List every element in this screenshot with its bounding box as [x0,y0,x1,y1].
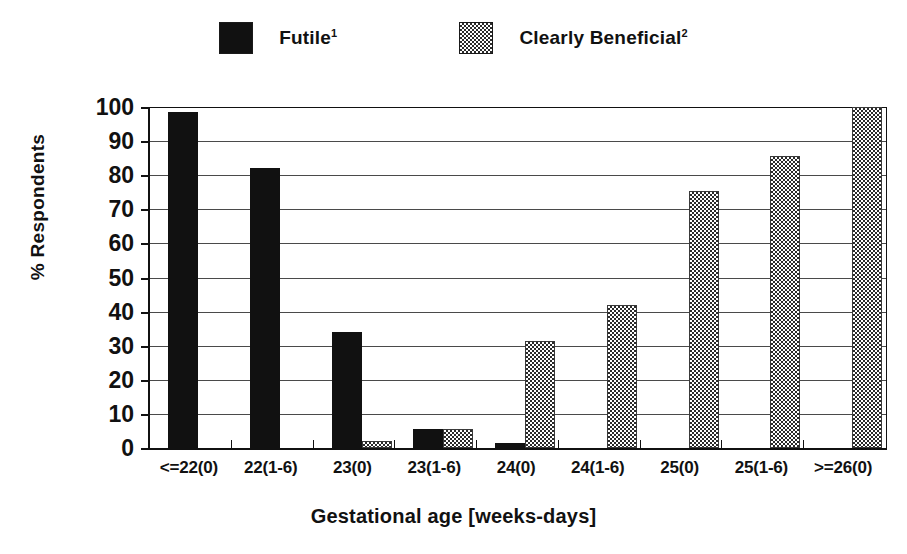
y-axis-tick-90 [141,141,150,143]
x-axis-tick-label->=26(0): >=26(0) [802,458,884,478]
y-axis-title: % Respondents [27,97,49,317]
bar-group->=26(0) [804,107,886,448]
bar-futile-<=22(0) [168,112,198,448]
bar-futile-23(1-6) [413,429,443,448]
y-axis-tick-10 [141,414,150,416]
bar-group-24(1-6) [559,107,641,448]
y-axis-tick-60 [141,243,150,245]
y-axis-tick-label-20: 20 [108,368,134,391]
bar-group-23(1-6) [395,107,477,448]
y-axis-tick-40 [141,312,150,314]
y-axis-tick-label-80: 80 [108,164,134,187]
bar-clearly-beneficial-25(1-6) [770,156,800,448]
y-axis-tick-label-90: 90 [108,130,134,153]
y-axis-tick-100 [141,107,150,109]
y-axis-tick-label-70: 70 [108,198,134,221]
y-axis-tick-label-30: 30 [108,334,134,357]
y-axis-tick-label-40: 40 [108,300,134,323]
x-axis-tick-label-25(1-6): 25(1-6) [720,458,802,478]
bar-futile-24(0) [495,443,525,448]
y-axis-tick-label-10: 10 [108,402,134,425]
x-axis-tick-label-24(1-6): 24(1-6) [557,458,639,478]
y-axis-tick-70 [141,209,150,211]
y-axis-tick-20 [141,380,150,382]
y-axis-tick-30 [141,346,150,348]
x-axis-tick-label-24(0): 24(0) [475,458,557,478]
x-axis-tick-label-22(1-6): 22(1-6) [230,458,312,478]
y-axis-tick-label-50: 50 [108,266,134,289]
bars-group [150,107,886,448]
bar-clearly-beneficial->=26(0) [852,107,882,448]
x-axis-title: Gestational age [weeks-days] [0,505,907,528]
bar-clearly-beneficial-25(0) [689,191,719,448]
x-axis-tick-label-<=22(0): <=22(0) [148,458,230,478]
y-axis-tick-80 [141,175,150,177]
x-axis-tick-label-25(0): 25(0) [639,458,721,478]
bar-group-25(0) [641,107,723,448]
bar-futile-22(1-6) [250,168,280,448]
bar-clearly-beneficial-24(1-6) [607,305,637,448]
bar-group-23(0) [314,107,396,448]
bar-group-22(1-6) [232,107,314,448]
y-axis-tick-50 [141,278,150,280]
x-axis-tick-labels: <=22(0)22(1-6)23(0)23(1-6)24(0)24(1-6)25… [148,458,884,478]
bar-group-<=22(0) [150,107,232,448]
chart-container: % Respondents 0102030405060708090100 <=2… [0,0,907,554]
y-axis-tick-label-60: 60 [108,232,134,255]
x-axis-tick-label-23(0): 23(0) [312,458,394,478]
y-axis-tick-0 [141,448,150,450]
bar-group-25(1-6) [722,107,804,448]
bar-group-24(0) [477,107,559,448]
bar-clearly-beneficial-23(1-6) [443,429,473,448]
bar-futile-23(0) [332,332,362,448]
bar-clearly-beneficial-24(0) [525,341,555,448]
bar-clearly-beneficial-23(0) [362,441,392,448]
x-axis-tick-label-23(1-6): 23(1-6) [393,458,475,478]
y-axis-tick-label-0: 0 [121,437,134,460]
plot-area: 0102030405060708090100 [148,107,887,450]
y-axis-tick-label-100: 100 [96,96,134,119]
